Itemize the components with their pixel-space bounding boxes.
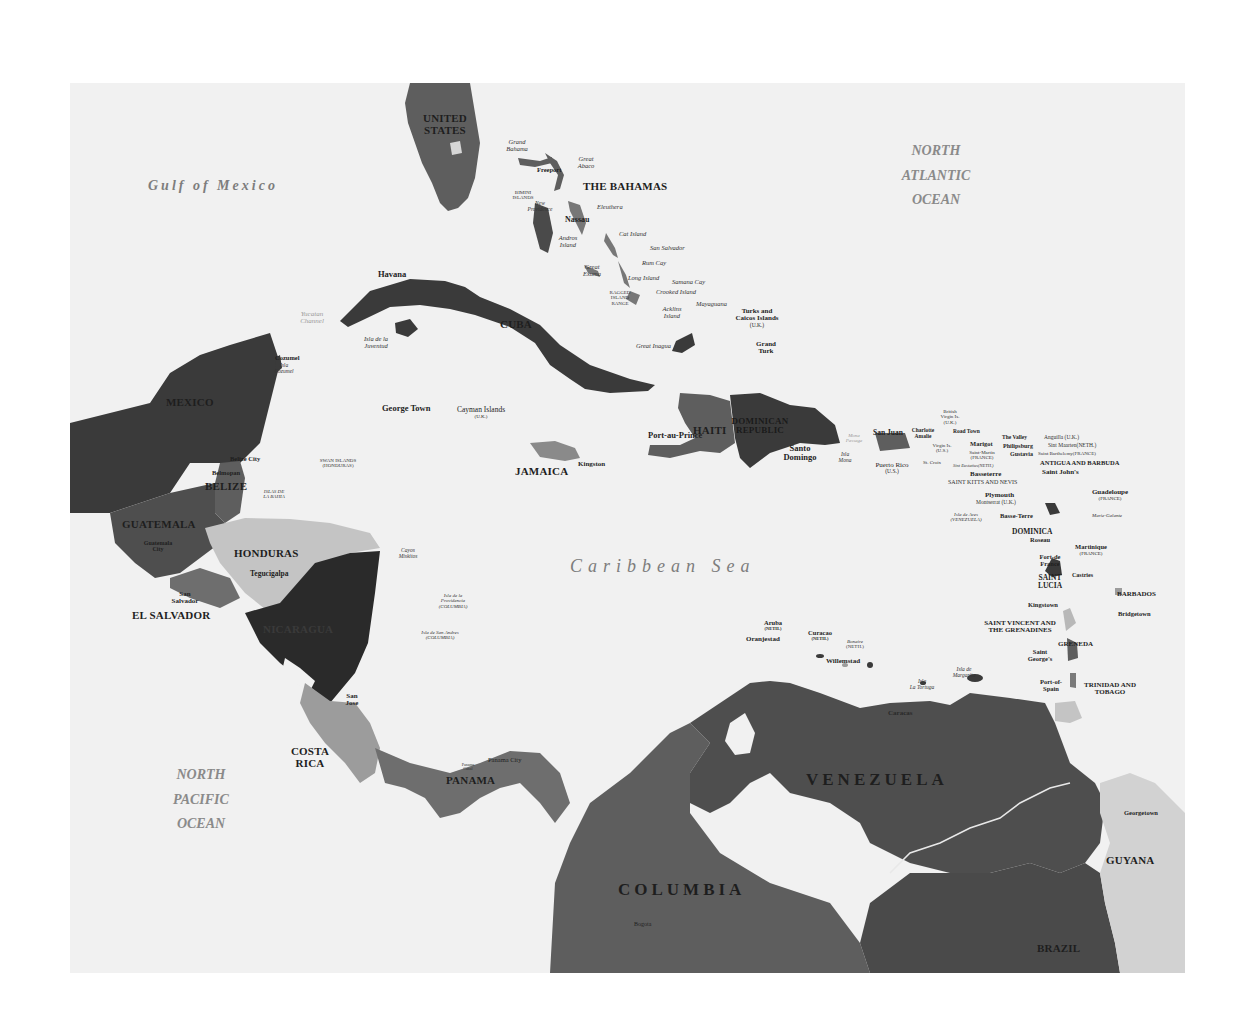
montserrat-label: Montserrat (U.K.) — [976, 500, 1016, 506]
saint-johns-label: Saint John's — [1042, 469, 1079, 476]
costa-rica-label: COSTA RICA — [291, 746, 329, 769]
san-salvador-label: San Salvador — [650, 245, 685, 252]
saint-georges-label: Saint George's — [1028, 649, 1053, 663]
caribbean-map: Gulf of Mexico NORTH ATLANTIC OCEAN NORT… — [70, 83, 1185, 973]
bridgetown-label: Bridgetown — [1118, 611, 1151, 618]
np-line-2: Providence — [528, 207, 553, 213]
basse-terre-label: Basse-Terre — [1000, 513, 1033, 520]
aruba-label: Aruba (NETH.) — [764, 620, 782, 632]
gt-line-2: Turk — [756, 348, 776, 355]
marigot-label: Marigot — [970, 441, 993, 448]
nassau-label: Nassau — [565, 216, 589, 224]
georgetown-label: Georgetown — [1124, 810, 1158, 817]
costa-rica-line-1: COSTA — [291, 746, 329, 758]
atlantic-line-2: ATLANTIC — [902, 164, 970, 189]
mexico-land — [70, 333, 280, 513]
eleuthera-label: Eleuthera — [597, 204, 623, 211]
pacific-line-3: OCEAN — [173, 812, 229, 837]
tegucigalpa-label: Tegucigalpa — [250, 570, 288, 578]
usvi-line-2: (U.S.) — [933, 448, 952, 453]
st-georges-line-2: George's — [1028, 656, 1053, 663]
pc-line-2: Canal — [462, 767, 475, 771]
havana-label: Havana — [378, 270, 406, 279]
sa-line-2: (COLUMBIA) — [421, 635, 458, 640]
prov-line-2: Providencia — [439, 598, 468, 603]
guatemala-city-label: Guatemala City — [144, 540, 172, 553]
atlantic-line-3: OCEAN — [902, 188, 970, 213]
kingstown-label: Kingstown — [1028, 602, 1058, 609]
margarita-label: Isla de Margarita — [953, 667, 976, 679]
charlotte-amalie-label: Charlotte Amalie — [912, 428, 935, 440]
cur-line-2: (NETH.) — [808, 637, 832, 642]
crooked-island-label: Crooked Island — [656, 289, 696, 296]
basseterre-label: Basseterre — [970, 471, 1001, 478]
north-pacific-ocean-label: NORTH PACIFIC OCEAN — [173, 763, 229, 837]
gulf-of-mexico-label: Gulf of Mexico — [148, 179, 278, 194]
el-salvador-label: EL SALVADOR — [132, 610, 210, 622]
panama-canal-label: Panama Canal — [462, 763, 475, 771]
trinidad-line-2: TOBAGO — [1084, 689, 1136, 696]
ic-line-2: Cozumel — [274, 369, 293, 375]
swan-islands-label: SWAN ISLANDS (HONDURAS) — [320, 458, 357, 469]
ragged-island-label: RAGGED ISLAND RANGE — [610, 290, 631, 306]
bon-line-2: (NETH.) — [846, 644, 864, 649]
honduras-label: HONDURAS — [234, 548, 299, 560]
long-island-label: Long Island — [628, 275, 659, 282]
isla-juventud-land — [395, 319, 418, 337]
grand-bahama-label: Grand Bahama — [506, 139, 528, 153]
isla-mona-label: Isla Mona — [839, 452, 852, 464]
roseau-label: Roseau — [1030, 537, 1050, 544]
usa-label: UNITED STATES — [423, 113, 467, 136]
san-jose-label: San Jose — [346, 693, 359, 708]
st-vincent-line-2: THE GRENADINES — [984, 627, 1056, 634]
charlotte-line-2: Amalie — [912, 434, 935, 440]
ij-line-2: Juventud — [364, 343, 388, 350]
port-of-spain-label: Port-of- Spain — [1040, 679, 1062, 693]
tc-line-3: (U.K.) — [736, 323, 779, 329]
guyana-label: GUYANA — [1106, 855, 1154, 867]
grenada-label: GRENEDA — [1058, 641, 1093, 648]
ss-line-2: Salvador — [172, 598, 199, 605]
great-inagua-label: Great Inagua — [636, 343, 671, 350]
mexico-label: MEXICO — [166, 397, 214, 409]
la-tortuga-label: Isla La Tortuga — [910, 679, 934, 691]
trinidad-label: TRINIDAD AND TOBAGO — [1084, 682, 1136, 697]
columbia-label: COLUMBIA — [618, 881, 745, 899]
providencia-label: Isla de la Providencia (COLUMBIA) — [439, 593, 468, 609]
st-barth-label: Saint Barthelemy(FRANCE) — [1038, 451, 1096, 456]
usa-land — [405, 83, 480, 211]
islas-bahia-label: ISLAS DE LA BAHIA — [263, 489, 284, 500]
st-lucia-line-2: LUCIA — [1038, 582, 1062, 590]
san-juan-label: San Juan — [873, 429, 903, 437]
gc-line-2: City — [144, 546, 172, 552]
great-abaco-label: Great Abaco — [578, 156, 595, 170]
yucatan-line-2: Channel — [300, 318, 324, 325]
st-vincent-label: SAINT VINCENT AND THE GRENADINES — [984, 620, 1056, 635]
sj-line-2: Jose — [346, 700, 359, 707]
fort-de-france-label: Fort-de France — [1040, 554, 1061, 568]
port-au-prince-label: Port-au-Prince — [648, 431, 702, 440]
freeport-label: Freeport — [537, 167, 561, 174]
gustavia-label: Gustavia — [1010, 451, 1033, 457]
bonaire-label: Bonaire (NETH.) — [846, 639, 864, 650]
cuba-label: CUBA — [500, 319, 532, 331]
cm-line-2: Miskitos — [399, 554, 418, 560]
philipsburg-label: Philipsburg — [1003, 443, 1033, 449]
isla-cozumel-label: Isla Cozumel — [274, 363, 293, 375]
fdf-line-2: France — [1040, 561, 1061, 568]
cat-island-label: Cat Island — [619, 231, 646, 238]
turks-caicos-label: Turks and Caicos Islands (U.K.) — [736, 308, 779, 328]
st-croix-label: St. Croix — [923, 460, 941, 465]
cayman-label: Cayman Islands (U.K.) — [457, 406, 505, 419]
acklins-label: Acklins Island — [662, 306, 681, 320]
smf-line-2: (FRANCE) — [969, 455, 995, 460]
dominican-republic-label: DOMINICAN REPUBLIC — [732, 417, 789, 436]
ga-line-2: Abaco — [578, 163, 595, 170]
lt-line-2: La Tortuga — [910, 685, 934, 691]
mart-line-2: (FRANCE) — [1075, 551, 1107, 556]
north-atlantic-ocean-label: NORTH ATLANTIC OCEAN — [902, 139, 970, 213]
marie-galante-label: Marie-Galante — [1092, 513, 1122, 518]
curacao-label: Curacao (NETH.) — [808, 630, 832, 642]
puerto-rico-label: Puerto Rico (U.S.) — [875, 462, 908, 475]
rum-cay-label: Rum Cay — [642, 260, 666, 267]
